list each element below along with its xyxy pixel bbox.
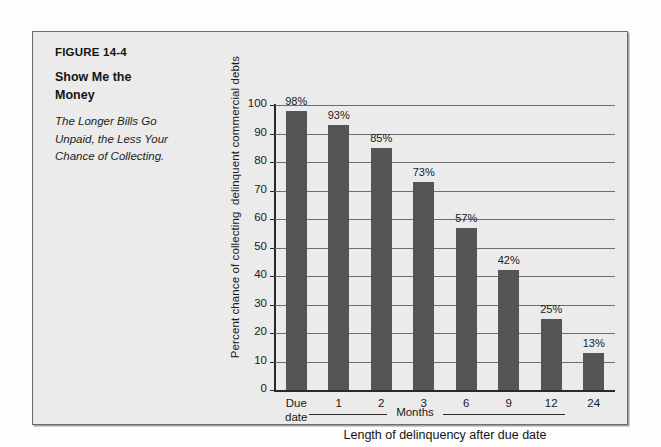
- y-axis-tick: [270, 191, 275, 192]
- bar: [328, 125, 349, 390]
- gridline: [275, 362, 615, 363]
- figure-title: Show Me theMoney: [55, 68, 195, 104]
- y-axis-tick: [270, 134, 275, 135]
- bar: [371, 148, 392, 390]
- gridline: [275, 248, 615, 249]
- gridline: [275, 219, 615, 220]
- y-axis-tick-label: 0: [237, 382, 267, 394]
- y-axis-tick-label: 100: [237, 97, 267, 109]
- gridline: [275, 134, 615, 135]
- gridline: [275, 162, 615, 163]
- months-bracket: Months: [275, 406, 615, 422]
- figure-panel: FIGURE 14-4 Show Me theMoney The Longer …: [32, 31, 628, 425]
- bar-chart: Percent chance of collecting delinquent …: [193, 32, 629, 426]
- gridline: [275, 276, 615, 277]
- figure-subtitle: The Longer Bills Go Unpaid, the Less You…: [55, 113, 195, 165]
- bar-value-label: 85%: [361, 132, 401, 144]
- y-axis-tick-label: 20: [237, 325, 267, 337]
- y-axis-tick: [270, 390, 275, 391]
- y-axis-tick: [270, 105, 275, 106]
- bar-value-label: 13%: [574, 337, 614, 349]
- bar: [498, 270, 519, 390]
- bar: [413, 182, 434, 390]
- bar-value-label: 98%: [276, 95, 316, 107]
- y-axis-tick-label: 50: [237, 240, 267, 252]
- x-axis-title: Length of delinquency after due date: [275, 428, 615, 442]
- y-axis-tick-label: 80: [237, 154, 267, 166]
- bar: [583, 353, 604, 390]
- y-axis-tick: [270, 219, 275, 220]
- y-axis-tick-label: 70: [237, 183, 267, 195]
- bar-value-label: 57%: [446, 212, 486, 224]
- gridline: [275, 333, 615, 334]
- y-axis-tick-label: 40: [237, 268, 267, 280]
- y-axis-tick-label: 10: [237, 354, 267, 366]
- y-axis-tick-label: 30: [237, 297, 267, 309]
- plot-area: 98%93%85%73%57%42%25%13% Duedate12369122…: [275, 105, 615, 390]
- figure-caption-block: FIGURE 14-4 Show Me theMoney The Longer …: [55, 46, 195, 165]
- y-axis-tick-label: 60: [237, 211, 267, 223]
- y-axis-tick: [270, 333, 275, 334]
- bar-value-label: 25%: [531, 303, 571, 315]
- y-axis-tick: [270, 362, 275, 363]
- x-axis-line: [274, 390, 615, 392]
- figure-number: FIGURE 14-4: [55, 46, 195, 58]
- bar-value-label: 93%: [319, 109, 359, 121]
- bar-value-label: 42%: [489, 254, 529, 266]
- bar: [456, 228, 477, 390]
- y-axis-tick: [270, 305, 275, 306]
- months-bracket-label: Months: [387, 406, 443, 418]
- y-axis-title: Percent chance of collecting delinquent …: [229, 42, 245, 372]
- y-axis-tick-label: 90: [237, 126, 267, 138]
- y-axis-tick: [270, 248, 275, 249]
- y-axis-tick: [270, 162, 275, 163]
- gridline: [275, 105, 615, 106]
- bar: [541, 319, 562, 390]
- months-bracket-line-left: [309, 414, 387, 415]
- months-bracket-line-right: [443, 414, 565, 415]
- gridline: [275, 191, 615, 192]
- bar-value-label: 73%: [404, 166, 444, 178]
- y-axis-tick: [270, 276, 275, 277]
- bar: [286, 111, 307, 390]
